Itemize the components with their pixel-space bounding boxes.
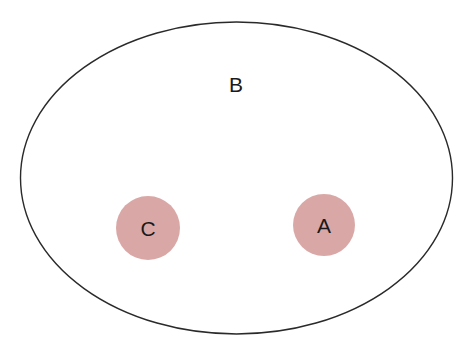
set-a-label: A [317,214,331,237]
set-b-ellipse [21,22,453,334]
set-c-label: C [140,217,155,240]
venn-diagram: B C A [0,0,474,349]
set-b-label: B [229,73,243,96]
